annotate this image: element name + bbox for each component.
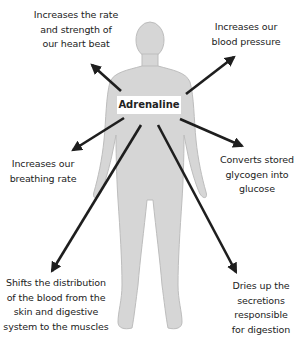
adrenaline-label: Adrenaline (117, 96, 181, 114)
text-line: Converts stored (212, 153, 300, 168)
effect-digestion-label: Dries up the secretions responsible for … (222, 279, 300, 337)
text-line: of the blood from the (0, 291, 112, 306)
text-line: Increases our (196, 20, 296, 35)
text-line: skin and digestive (0, 305, 112, 320)
text-line: Increases the rate (20, 8, 132, 23)
text-line: Dries up the (222, 279, 300, 294)
text-line: for digestion (222, 323, 300, 338)
effect-breathing-label: Increases our breathing rate (2, 157, 84, 186)
text-line: glucose (212, 182, 300, 197)
text-line: system to the muscles (0, 320, 112, 335)
text-line: and strength of (20, 23, 132, 38)
text-line: secretions (222, 294, 300, 309)
text-line: Shifts the distribution (0, 276, 112, 291)
effect-blood-distribution-label: Shifts the distribution of the blood fro… (0, 276, 112, 334)
text-line: glycogen into (212, 168, 300, 183)
arrow-blood-pressure (186, 57, 234, 94)
text-line: our heart beat (20, 37, 132, 52)
text-line: blood pressure (196, 35, 296, 50)
text-line: Increases our (2, 157, 84, 172)
effect-blood-pressure-label: Increases our blood pressure (196, 20, 296, 49)
effect-heart-label: Increases the rate and strength of our h… (20, 8, 132, 52)
text-line: responsible (222, 308, 300, 323)
effect-glycogen-label: Converts stored glycogen into glucose (212, 153, 300, 197)
text-line: breathing rate (2, 172, 84, 187)
